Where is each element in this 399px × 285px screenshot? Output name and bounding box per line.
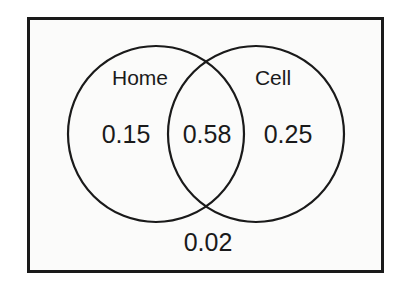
home-set-label: Home [112, 66, 168, 89]
intersection-value: 0.58 [183, 120, 232, 148]
venn-diagram-figure: Home Cell 0.15 0.58 0.25 0.02 [0, 0, 399, 285]
cell-only-value: 0.25 [264, 120, 313, 148]
outside-region-value: 0.02 [184, 228, 233, 256]
venn-diagram-canvas: Home Cell 0.15 0.58 0.25 0.02 [0, 0, 399, 285]
home-only-value: 0.15 [102, 120, 151, 148]
cell-set-label: Cell [255, 66, 291, 89]
